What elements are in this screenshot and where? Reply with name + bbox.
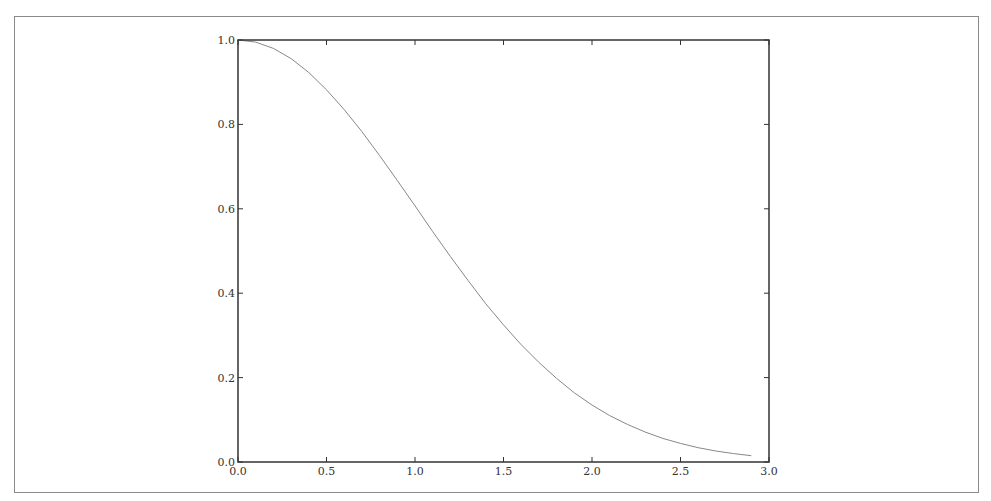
axes-box (238, 40, 769, 462)
y-tick-label: 0.0 (218, 456, 236, 469)
tick-labels: 0.00.51.01.52.02.53.00.00.20.40.60.81.0 (218, 34, 778, 478)
line-chart: 0.00.51.01.52.02.53.00.00.20.40.60.81.0 (0, 0, 991, 501)
x-tick-label: 2.0 (583, 465, 601, 478)
axis-ticks (238, 40, 769, 462)
x-tick-label: 2.5 (672, 465, 690, 478)
x-tick-label: 3.0 (760, 465, 778, 478)
y-tick-label: 0.6 (218, 203, 236, 216)
y-tick-label: 0.4 (218, 287, 236, 300)
x-tick-label: 1.0 (406, 465, 424, 478)
y-tick-label: 0.8 (218, 118, 236, 131)
y-tick-label: 1.0 (218, 34, 236, 47)
data-line (238, 40, 751, 456)
y-tick-label: 0.2 (218, 372, 236, 385)
x-tick-label: 1.5 (495, 465, 513, 478)
x-tick-label: 0.5 (318, 465, 336, 478)
